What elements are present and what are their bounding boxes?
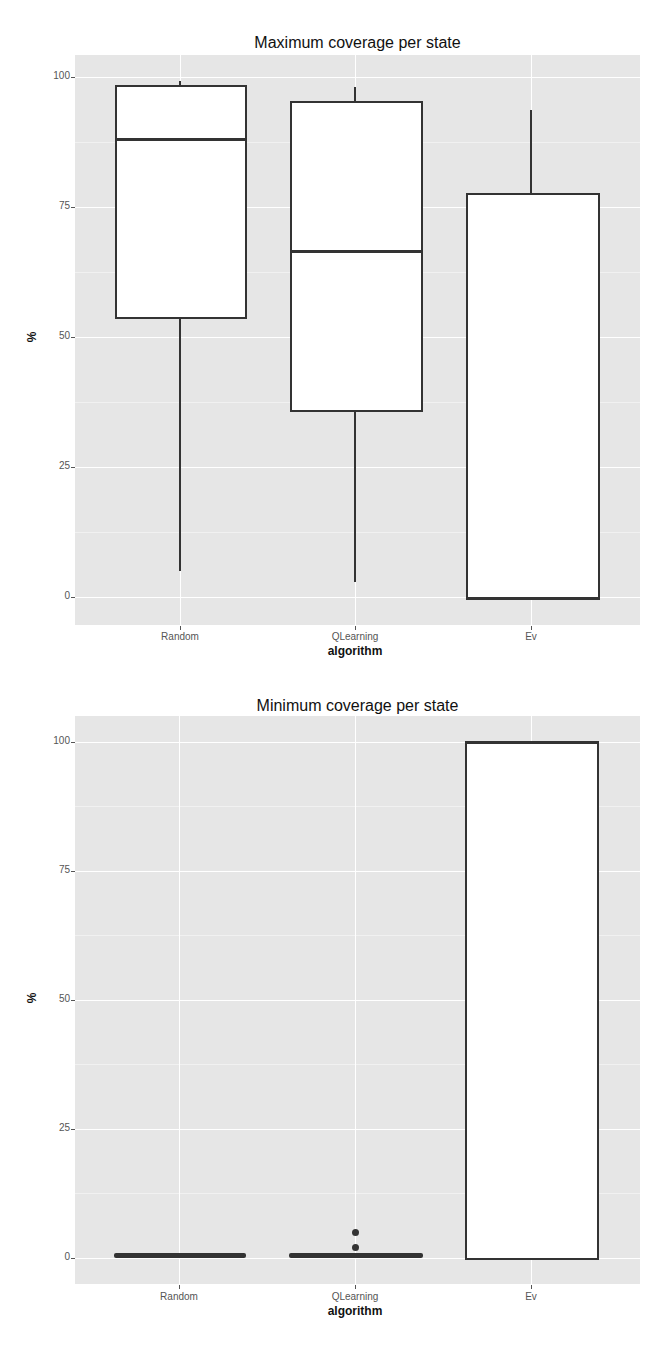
x-tick-mark — [179, 1285, 180, 1289]
vertical-gridline — [355, 716, 356, 1284]
vertical-gridline — [179, 716, 180, 1284]
min-coverage-chart: Minimum coverage per state % 100 75 50 2… — [0, 0, 661, 1356]
y-tick-label: 50 — [40, 993, 70, 1004]
box-random-collapsed — [114, 1253, 246, 1258]
x-tick-label: Random — [119, 1291, 239, 1302]
box-ev — [465, 741, 599, 1260]
median-ev — [465, 741, 599, 744]
x-tick-label: Ev — [471, 1291, 591, 1302]
y-tick-label: 25 — [40, 1122, 70, 1133]
plot-panel — [75, 716, 640, 1284]
y-axis-label: % — [25, 993, 39, 1004]
x-tick-mark — [531, 1285, 532, 1289]
outlier-point — [352, 1244, 359, 1251]
x-tick-label: QLearning — [295, 1291, 415, 1302]
y-tick-label: 0 — [40, 1251, 70, 1262]
box-qlearning-collapsed — [289, 1253, 423, 1258]
chart-title: Minimum coverage per state — [75, 697, 640, 715]
y-tick-label: 75 — [40, 864, 70, 875]
outlier-point — [352, 1229, 359, 1236]
y-tick-label: 100 — [40, 735, 70, 746]
x-tick-mark — [355, 1285, 356, 1289]
x-axis-label: algorithm — [255, 1304, 455, 1318]
